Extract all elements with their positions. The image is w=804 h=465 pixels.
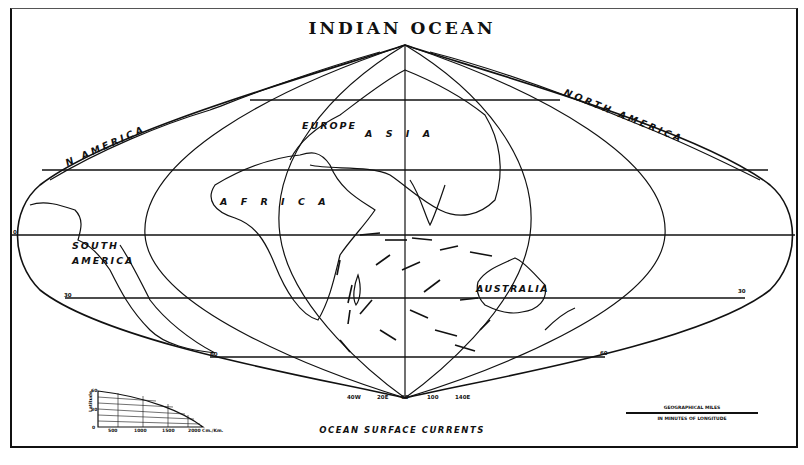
meridian-label-3: 60: [401, 394, 409, 400]
legend-ytick-30: 30: [91, 407, 97, 412]
lat-label-left-0: 0: [13, 229, 17, 235]
label-south-america: SOUTH AMERICA: [72, 238, 142, 268]
meridian-label-2: 20E: [377, 394, 388, 400]
legend-ytick-60: 60: [91, 388, 97, 393]
meridian-label-4: 100: [427, 394, 438, 400]
legend-xtick-1000: 1000: [134, 428, 147, 433]
lat-label-left-60: 60: [210, 351, 218, 357]
label-australia: AUSTRALIA: [476, 283, 549, 294]
lat-label-right-30: 30: [738, 288, 746, 294]
legend-xtick-2000: 2000 Cm./Km.: [188, 428, 223, 433]
lat-label-left-30: 30: [64, 292, 72, 298]
meridian-label-5: 140E: [455, 394, 470, 400]
lat-label-right-60: 60: [600, 350, 608, 356]
label-asia: A S I A: [365, 128, 435, 139]
legend-xtick-1500: 1500: [162, 428, 175, 433]
scale-caption: IN MINUTES OF LONGITUDE: [622, 416, 762, 421]
scale-bar: [626, 412, 758, 414]
scale-title: GEOGRAPHICAL MILES: [622, 405, 762, 410]
legend-xtick-500: 500: [108, 428, 117, 433]
meridian-label-1: 40W: [347, 394, 361, 400]
eurasia-coast: [290, 70, 500, 215]
scale-legend: GEOGRAPHICAL MILES IN MINUTES OF LONGITU…: [622, 405, 762, 421]
label-europe: EUROPE: [302, 120, 357, 131]
label-africa: A F R I C A: [220, 196, 331, 207]
legend-ytick-0: 0: [92, 425, 95, 430]
